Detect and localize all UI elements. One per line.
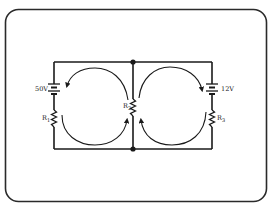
left-loop-arrow-bottom: [62, 115, 127, 145]
resistor-r3-label: R3: [217, 114, 225, 123]
resistor-r2-symbol: [131, 99, 136, 116]
circuit-diagram: 50V 12V R1 R2 R3: [0, 0, 272, 204]
resistor-r1-symbol: [52, 110, 57, 127]
resistor-r3-symbol: [210, 110, 215, 127]
junction-bottom-dot: [130, 146, 135, 151]
right-loop-arrow-bottom: [141, 112, 206, 145]
battery-left-label: 50V: [35, 85, 48, 93]
resistor-r1-label: R1: [42, 114, 50, 123]
battery-right-symbol: [206, 84, 218, 94]
battery-right-label: 12V: [221, 85, 234, 93]
junction-top-dot: [130, 59, 135, 64]
wires: [54, 62, 212, 149]
right-loop-arrow-top: [139, 67, 202, 98]
outer-frame: [6, 10, 267, 202]
left-loop-arrow-top: [67, 68, 128, 100]
battery-left-symbol: [48, 84, 60, 94]
